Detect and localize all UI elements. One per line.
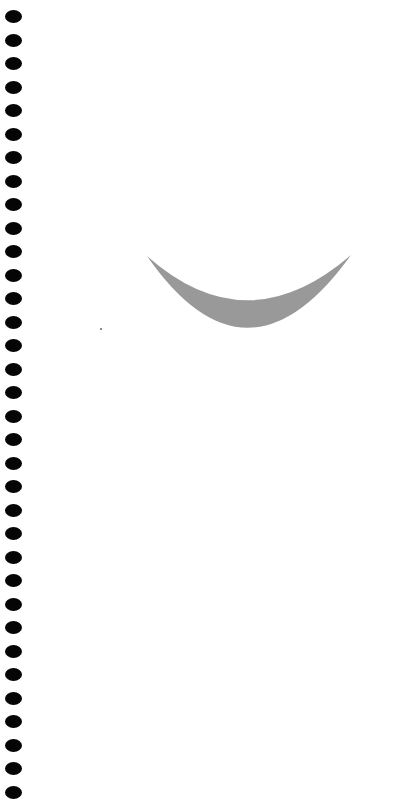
crescent-shape [0,0,407,806]
notebook-page [0,0,407,806]
crescent-icon [147,255,351,328]
speck-mark [100,328,102,330]
